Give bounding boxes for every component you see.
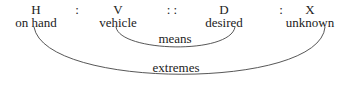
separator-colon: : bbox=[279, 3, 283, 16]
term-d-label: desired bbox=[205, 16, 243, 29]
term-x-label: unknown bbox=[286, 16, 334, 29]
separator-double-colon: : : bbox=[167, 3, 177, 16]
separator-colon: : bbox=[75, 3, 79, 16]
means-label: means bbox=[158, 32, 191, 45]
extremes-label: extremes bbox=[153, 61, 200, 74]
term-h-label: on hand bbox=[15, 16, 57, 29]
term-v-label: vehicle bbox=[99, 16, 137, 29]
